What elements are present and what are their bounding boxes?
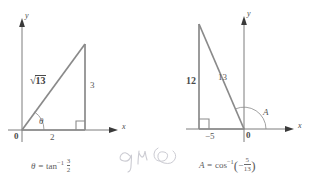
left-x-axis-label: x — [122, 123, 126, 131]
left-formula-equals: = — [38, 161, 44, 171]
right-formula-equals: = — [207, 160, 213, 170]
right-diagram-group — [186, 16, 294, 142]
right-y-axis-label: y — [247, 10, 251, 18]
left-formula-lhs: θ — [31, 161, 35, 171]
left-formula-numerator: 3 — [67, 158, 71, 165]
right-formula-close-paren: ) — [251, 159, 255, 172]
left-x-axis-arrow — [109, 127, 118, 133]
left-triangle-hypotenuse — [22, 44, 85, 130]
right-formula-exponent: −1 — [227, 158, 234, 165]
handwritten-note-strokes — [120, 148, 176, 172]
right-origin-label: 0 — [246, 131, 251, 140]
right-formula: A = cos−1(−513) — [199, 157, 256, 173]
left-y-axis-label: y — [25, 12, 29, 20]
left-formula-denominator: 2 — [67, 165, 71, 173]
left-formula-fraction: 3 2 — [67, 158, 71, 174]
right-angle-A-label: A — [263, 108, 269, 117]
right-formula-denominator: 13 — [244, 164, 251, 172]
right-vertical-leg-label: 12 — [186, 76, 196, 86]
figure-canvas — [0, 0, 312, 179]
right-formula-numerator: 5 — [244, 157, 251, 164]
right-x-intercept-label: −5 — [205, 132, 215, 141]
right-formula-fraction: 513 — [244, 157, 251, 173]
left-formula: θ = tan−1 3 2 — [31, 158, 71, 174]
left-formula-exponent: −1 — [57, 159, 64, 166]
radicand: 13 — [35, 75, 46, 86]
right-x-axis-label: x — [298, 122, 302, 130]
left-right-angle-marker — [76, 121, 85, 130]
left-formula-fn: tan — [46, 161, 57, 171]
right-hypotenuse-label: 13 — [218, 73, 227, 82]
left-angle-theta-label: θ — [39, 117, 43, 126]
right-formula-lhs: A — [199, 160, 204, 170]
right-formula-fn: cos — [215, 160, 227, 170]
right-formula-sign: − — [238, 160, 243, 170]
left-hypotenuse-label: √13 — [30, 75, 46, 86]
right-right-angle-marker — [199, 119, 209, 129]
left-adjacent-side-label: 2 — [50, 133, 55, 142]
left-opposite-side-label: 3 — [90, 81, 95, 90]
left-diagram-group — [8, 18, 118, 142]
left-origin-label: 0 — [14, 132, 19, 141]
right-x-axis-arrow — [285, 126, 294, 132]
